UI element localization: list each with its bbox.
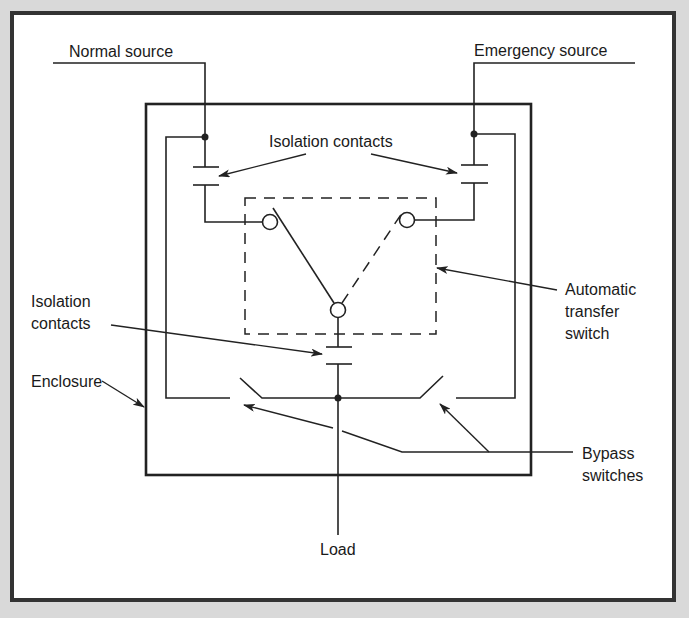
label-load: Load	[320, 541, 356, 558]
label-isolation-contacts-left-2: contacts	[31, 315, 91, 332]
label-normal-source: Normal source	[69, 43, 173, 60]
label-ats-3: switch	[565, 325, 609, 342]
normal-contact-terminal	[263, 215, 278, 230]
label-enclosure: Enclosure	[31, 373, 102, 390]
common-contact-terminal	[331, 303, 346, 318]
label-emergency-source: Emergency source	[474, 42, 607, 59]
label-isolation-contacts-top: Isolation contacts	[269, 133, 393, 150]
label-ats-2: transfer	[565, 303, 620, 320]
label-bypass-1: Bypass	[582, 445, 634, 462]
label-bypass-2: switches	[582, 467, 643, 484]
transfer-switch-diagram: Normal source Emergency source Isolation…	[0, 0, 689, 618]
label-ats-1: Automatic	[565, 281, 636, 298]
label-isolation-contacts-left-1: Isolation	[31, 293, 91, 310]
emergency-contact-terminal	[400, 213, 415, 228]
